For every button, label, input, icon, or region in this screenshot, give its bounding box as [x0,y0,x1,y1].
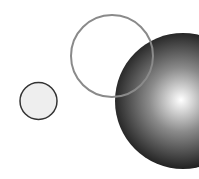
shapes-scene [0,0,199,179]
drawing-canvas [0,0,199,179]
small-light-gray-circle [20,83,57,120]
shaded-sphere [115,33,199,169]
